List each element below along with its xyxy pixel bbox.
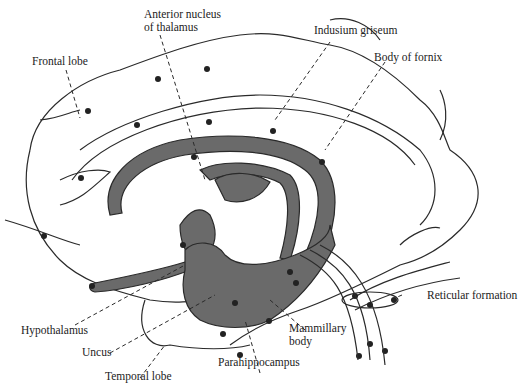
label-uncus: Uncus xyxy=(82,346,111,359)
label-frontal-lobe: Frontal lobe xyxy=(32,55,88,68)
label-mammillary-line2: body xyxy=(289,335,312,348)
label-anterior-nucleus-line2: of thalamus xyxy=(144,21,198,34)
label-temporal-lobe: Temporal lobe xyxy=(105,370,172,383)
label-reticular-formation: Reticular formation xyxy=(427,289,517,302)
label-hypothalamus: Hypothalamus xyxy=(21,324,88,337)
label-body-of-fornix: Body of fornix xyxy=(374,51,442,64)
limbic-structures xyxy=(90,136,335,327)
label-anterior-nucleus-line1: Anterior nucleus xyxy=(144,8,221,21)
label-mammillary-line1: Mammillary xyxy=(289,322,347,335)
label-parahippocampus: Parahippocampus xyxy=(218,356,300,369)
label-indusium-griseum: Indusium griseum xyxy=(314,24,397,37)
